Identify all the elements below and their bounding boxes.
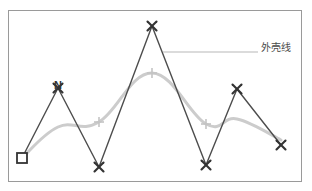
- figure-container: N 外壳线: [0, 0, 312, 191]
- annotation-label-hull-line: 外壳线: [261, 42, 291, 54]
- hull-marker-group: [94, 68, 211, 129]
- plot-canvas: N: [0, 0, 312, 191]
- square-marker: [17, 153, 27, 163]
- zigzag-line-path: [22, 26, 281, 167]
- vertex-label: N: [54, 79, 62, 91]
- vertex-label-group: N: [54, 79, 62, 91]
- zigzag-marker-group: [17, 22, 286, 172]
